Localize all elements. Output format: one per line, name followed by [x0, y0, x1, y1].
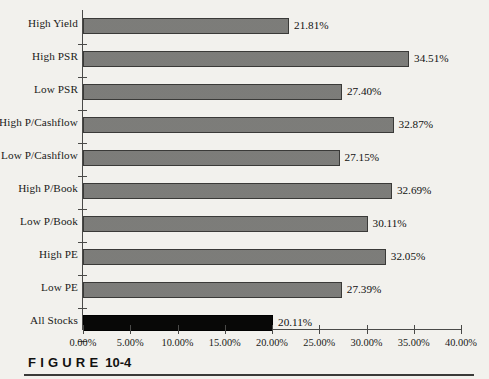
caption-divider: [24, 374, 474, 376]
bar: [83, 150, 340, 166]
category-label: High P/Cashflow: [0, 116, 78, 128]
figure-caption-number: 10-4: [105, 355, 131, 370]
x-axis-tick: [319, 325, 320, 334]
bar-row: High P/Cashflow32.87%: [0, 113, 489, 146]
bar-value-label: 21.81%: [294, 19, 329, 31]
x-axis-tick: [178, 325, 179, 334]
bar-value-label: 27.15%: [345, 151, 380, 163]
category-label: High Yield: [0, 17, 78, 29]
bar-row: Low P/Book30.11%: [0, 212, 489, 245]
bar-row: Low P/Cashflow27.15%: [0, 146, 489, 179]
bar-value-label: 32.69%: [397, 184, 432, 196]
bar-chart: High Yield21.81%High PSR34.51%Low PSR27.…: [0, 0, 489, 340]
bar-value-label: 32.05%: [391, 250, 426, 262]
y-axis-tick: [78, 143, 87, 144]
x-axis-tick: [367, 325, 368, 334]
bar-value-label: 30.11%: [373, 217, 407, 229]
figure-caption-word: FIGURE: [28, 355, 102, 370]
category-label: Low PSR: [0, 83, 78, 95]
x-axis-tick: [272, 325, 273, 334]
y-axis-tick: [78, 77, 87, 78]
x-axis-tick: [225, 325, 226, 334]
category-label: Low P/Book: [0, 215, 78, 227]
y-axis-tick: [78, 308, 87, 309]
bar-value-label: 27.39%: [347, 283, 382, 295]
bar-value-label: 34.51%: [414, 52, 449, 64]
bar: [83, 249, 386, 265]
bar: [83, 51, 409, 67]
bar: [83, 18, 289, 34]
bar-row: Low PSR27.40%: [0, 80, 489, 113]
x-axis-tick: [414, 325, 415, 334]
bar: [83, 216, 368, 232]
figure-caption-text: FIGURE10-4: [28, 355, 131, 370]
bar-value-label: 27.40%: [347, 85, 382, 97]
y-axis-tick: [78, 209, 87, 210]
category-label: All Stocks: [0, 314, 78, 326]
bar: [83, 183, 392, 199]
category-label: High P/Book: [0, 182, 78, 194]
y-axis-tick: [78, 110, 87, 111]
y-axis-tick: [78, 275, 87, 276]
bar-row: High PSR34.51%: [0, 47, 489, 80]
bar-row: Low PE27.39%: [0, 278, 489, 311]
figure-caption: FIGURE10-4: [0, 355, 489, 379]
figure-container: High Yield21.81%High PSR34.51%Low PSR27.…: [0, 0, 489, 379]
category-label: High PE: [0, 248, 78, 260]
bar-row: High PE32.05%: [0, 245, 489, 278]
bar-value-label: 20.11%: [278, 316, 312, 328]
bar-row: High P/Book32.69%: [0, 179, 489, 212]
y-axis-tick: [78, 44, 87, 45]
category-label: Low PE: [0, 281, 78, 293]
y-axis-tick: [78, 176, 87, 177]
bar: [83, 117, 394, 133]
bar: [83, 282, 342, 298]
bar-row: High Yield21.81%: [0, 14, 489, 47]
category-label: High PSR: [0, 50, 78, 62]
bar-value-label: 32.87%: [399, 118, 434, 130]
x-axis-tick: [83, 325, 84, 334]
x-axis-tick: [461, 325, 462, 334]
y-axis-tick: [78, 242, 87, 243]
x-axis-tick-label: 40.00%: [431, 337, 489, 348]
x-axis-tick: [130, 325, 131, 334]
bar: [83, 84, 342, 100]
category-label: Low P/Cashflow: [0, 149, 78, 161]
